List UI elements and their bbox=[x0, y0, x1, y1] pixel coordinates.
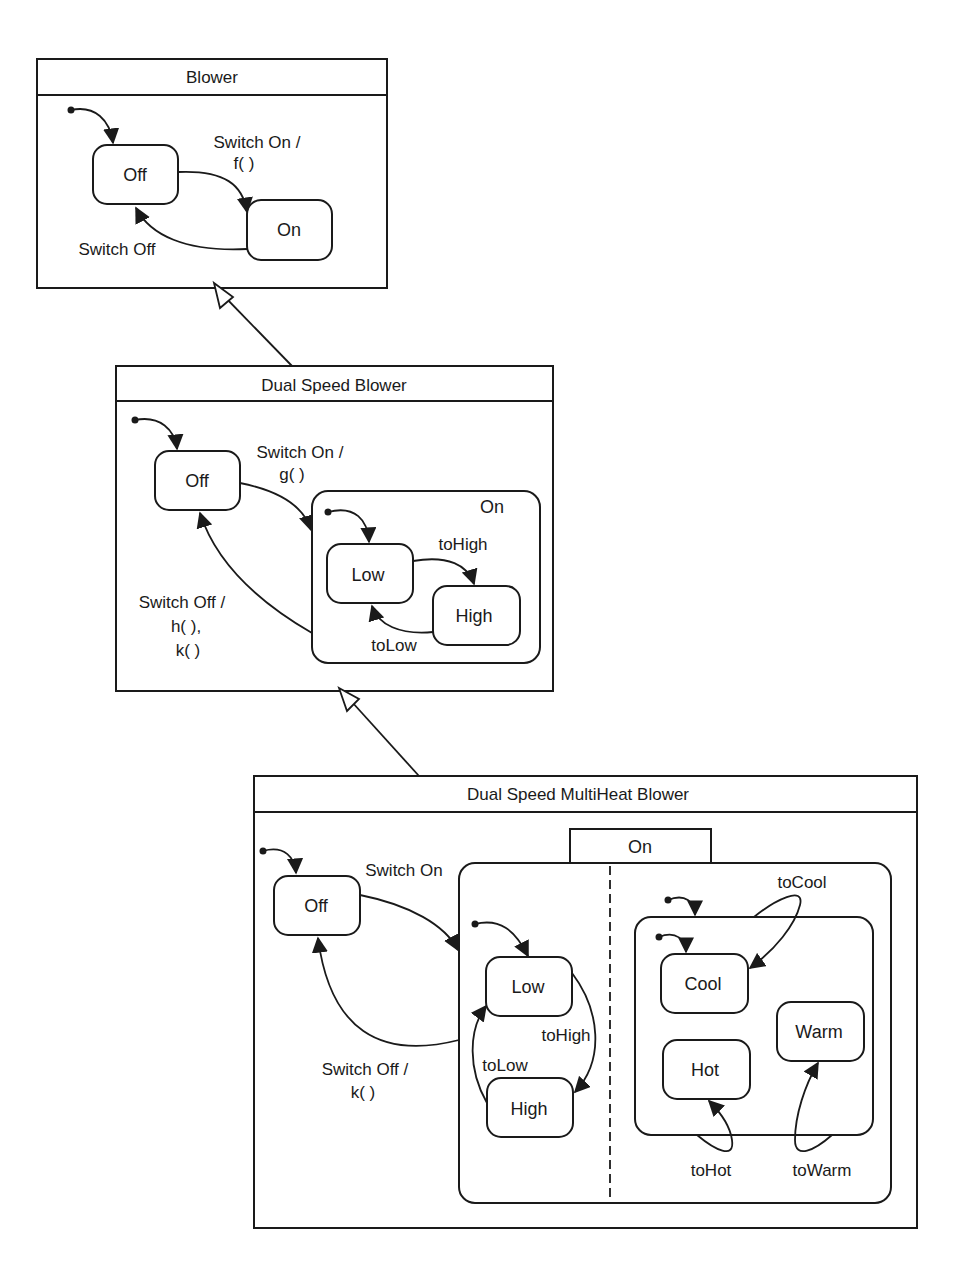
transition-to-high-label: toHigh bbox=[541, 1026, 590, 1045]
state-on-label: On bbox=[277, 220, 301, 240]
machine-dual-speed-blower: Dual Speed Blower Off Switch On / g( ) O… bbox=[116, 366, 553, 691]
state-low-label: Low bbox=[511, 977, 545, 997]
transition-to-warm-label: toWarm bbox=[793, 1161, 852, 1180]
transition-switch-on-action: f( ) bbox=[234, 154, 255, 173]
state-on-label: On bbox=[628, 837, 652, 857]
state-high-label: High bbox=[510, 1099, 547, 1119]
transition-switch-off-action-2: k( ) bbox=[176, 641, 201, 660]
state-high-label: High bbox=[455, 606, 492, 626]
machine-blower: Blower Off On Switch On / f( ) Switch Of… bbox=[37, 59, 387, 288]
transition-switch-off-action: k( ) bbox=[351, 1083, 376, 1102]
transition-switch-off-action-1: h( ), bbox=[171, 617, 201, 636]
generalization-arrow-2 bbox=[339, 688, 419, 776]
transition-switch-on-label: Switch On / bbox=[214, 133, 301, 152]
state-low-label: Low bbox=[351, 565, 385, 585]
state-diagram: Blower Off On Switch On / f( ) Switch Of… bbox=[0, 0, 970, 1273]
state-on-label: On bbox=[480, 497, 504, 517]
transition-to-hot-label: toHot bbox=[691, 1161, 732, 1180]
transition-to-low-label: toLow bbox=[371, 636, 417, 655]
transition-switch-on-label: Switch On bbox=[365, 861, 442, 880]
state-warm-label: Warm bbox=[795, 1022, 842, 1042]
transition-switch-on-action: g( ) bbox=[279, 465, 305, 484]
transition-to-low-label: toLow bbox=[482, 1056, 528, 1075]
state-off-label: Off bbox=[123, 165, 148, 185]
multiheat-title: Dual Speed MultiHeat Blower bbox=[467, 785, 689, 804]
state-hot-label: Hot bbox=[691, 1060, 719, 1080]
transition-switch-off-label: Switch Off / bbox=[322, 1060, 409, 1079]
transition-switch-on-label: Switch On / bbox=[257, 443, 344, 462]
transition-to-high-label: toHigh bbox=[438, 535, 487, 554]
dual-speed-title: Dual Speed Blower bbox=[261, 376, 407, 395]
machine-dual-speed-multiheat-blower: Dual Speed MultiHeat Blower Off Switch O… bbox=[254, 776, 917, 1228]
transition-switch-off-label: Switch Off bbox=[78, 240, 155, 259]
transition-to-cool-label: toCool bbox=[777, 873, 826, 892]
generalization-arrow-1 bbox=[214, 283, 292, 366]
state-off-label: Off bbox=[185, 471, 210, 491]
state-cool-label: Cool bbox=[684, 974, 721, 994]
state-off-label: Off bbox=[304, 896, 329, 916]
blower-title: Blower bbox=[186, 68, 238, 87]
transition-switch-off-label: Switch Off / bbox=[139, 593, 226, 612]
